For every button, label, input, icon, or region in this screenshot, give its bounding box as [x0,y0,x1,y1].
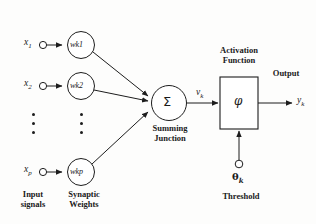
input-label-p: xp [24,165,32,177]
activation-caption-line2: Function [205,56,273,66]
input-node-circle-2 [39,82,46,89]
output-label: yk [297,96,304,108]
ellipsis-dot [80,113,83,116]
input-node-circle-1 [39,41,46,48]
activation-function-caption: Activation Function [205,46,273,66]
induced-field-label: vk [196,88,203,100]
weight-sub-2: k2 [76,81,83,90]
ellipsis-dot [32,131,35,134]
output-sub: k [301,100,304,108]
input-label-1: x1 [24,38,32,50]
input-sub-2: 2 [28,83,32,91]
weighted-arrow-1 [93,52,148,96]
ellipsis-dot [32,122,35,125]
weight-sub-1: k1 [76,40,83,49]
input-ellipsis [32,113,35,134]
threshold-symbol-label: θk [232,172,244,184]
ellipsis-dot [32,113,35,116]
threshold-sub: k [239,176,244,185]
weight-ellipsis [80,113,83,134]
input-label-2: x2 [24,79,32,91]
sigma-symbol: Σ [163,95,171,109]
output-caption: Output [264,69,308,78]
summing-junction-caption: Summing Junction [138,124,202,144]
phi-symbol: φ [234,95,242,108]
input-signals-line2: signals [8,200,58,210]
input-signals-caption: Input signals [8,190,58,210]
input-sub-p: p [28,169,32,177]
weighted-arrow-2 [94,90,148,101]
threshold-node-circle [235,160,243,168]
input-node-circle-p [39,168,46,175]
neuron-model-diagram: x1 x2 xp wk1 wk2 wkp Σ vk Summing Juncti… [0,0,316,224]
induced-field-sub: k [200,92,203,100]
weight-sub-p: kp [76,167,83,176]
weight-label-p: wkp [70,167,83,176]
ellipsis-dot [80,122,83,125]
ellipsis-dot [80,131,83,134]
weight-label-2: wk2 [70,81,83,90]
summing-junction-caption-line2: Junction [138,134,202,144]
threshold-caption: Threshold [213,192,269,201]
weight-label-1: wk1 [70,40,83,49]
input-sub-1: 1 [28,42,32,50]
synaptic-weights-caption: Synaptic Weights [55,190,113,210]
synaptic-weights-line2: Weights [55,200,113,210]
